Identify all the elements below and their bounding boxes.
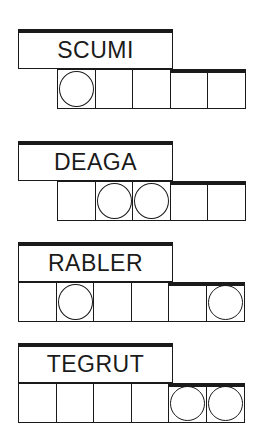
answer-cell[interactable]: [170, 69, 209, 109]
answer-cell[interactable]: [57, 69, 96, 109]
answer-cell[interactable]: [168, 383, 207, 423]
answer-cell[interactable]: [93, 383, 132, 423]
answer-cell[interactable]: [132, 181, 171, 221]
answer-cell[interactable]: [57, 181, 96, 221]
circle-marker-icon: [97, 183, 132, 219]
circle-marker-icon: [208, 386, 243, 421]
answer-cell[interactable]: [168, 282, 207, 322]
answer-cells: [57, 181, 246, 221]
answer-cell[interactable]: [132, 69, 171, 109]
scrambled-word-label: TEGRUT: [18, 343, 173, 383]
answer-cell[interactable]: [206, 383, 245, 423]
circle-marker-icon: [134, 183, 169, 219]
jumble-puzzle: SCUMI DEAGA RABLER TEGRUT: [0, 0, 273, 446]
scrambled-word-label: RABLER: [18, 242, 173, 282]
answer-cells: [18, 282, 245, 322]
circle-marker-icon: [58, 284, 93, 320]
answer-cell[interactable]: [207, 181, 246, 221]
answer-cell[interactable]: [56, 282, 95, 322]
answer-cell[interactable]: [207, 69, 246, 109]
answer-cell[interactable]: [18, 383, 57, 423]
circle-marker-icon: [170, 386, 205, 421]
circle-marker-icon: [208, 285, 243, 320]
answer-cell[interactable]: [131, 383, 170, 423]
answer-cell[interactable]: [93, 282, 132, 322]
answer-cells: [57, 69, 246, 109]
scrambled-word-label: SCUMI: [18, 29, 173, 69]
answer-cell[interactable]: [131, 282, 170, 322]
circle-marker-icon: [59, 71, 94, 107]
answer-cell[interactable]: [95, 181, 134, 221]
answer-cell[interactable]: [95, 69, 134, 109]
answer-cell[interactable]: [18, 282, 57, 322]
answer-cells: [18, 383, 245, 423]
answer-cell[interactable]: [206, 282, 245, 322]
scrambled-word-label: DEAGA: [18, 141, 173, 181]
answer-cell[interactable]: [170, 181, 209, 221]
answer-cell[interactable]: [56, 383, 95, 423]
